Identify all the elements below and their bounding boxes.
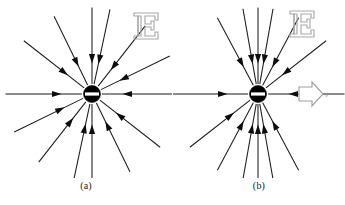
field-line — [217, 18, 253, 86]
field-line — [263, 18, 299, 86]
field-line-arrowhead — [248, 54, 254, 64]
panel-a-caption: (a) — [0, 180, 172, 191]
field-line-arrowhead — [119, 74, 129, 81]
field-line — [24, 41, 84, 88]
velocity-arrow: v — [299, 82, 329, 106]
field-line — [243, 104, 256, 178]
field-line-arrowhead — [81, 124, 87, 134]
field-line — [39, 102, 86, 162]
field-line-arrowhead — [272, 57, 279, 67]
field-line — [263, 103, 299, 171]
field-line-arrowhead — [289, 91, 299, 97]
minus-sign-b — [251, 92, 265, 95]
physics-figure: (a) v (b) — [0, 0, 345, 205]
field-line-arrowhead — [282, 67, 291, 75]
field-line — [217, 103, 253, 171]
field-line — [101, 56, 170, 90]
field-line-arrowhead — [236, 57, 243, 67]
charge-a — [84, 86, 101, 103]
electric-field-label-a — [134, 13, 158, 39]
field-line-arrowhead — [255, 125, 261, 135]
field-line — [14, 98, 83, 132]
field-line — [94, 9, 110, 84]
field-line-arrowhead — [65, 118, 73, 127]
panel-a-diagram — [0, 0, 172, 178]
electric-field-label-b — [290, 11, 314, 37]
field-line-arrowhead — [218, 91, 228, 97]
field-line-arrowhead — [123, 91, 133, 97]
panel-b-diagram: v — [173, 0, 345, 178]
minus-sign-a — [85, 92, 99, 95]
field-line — [260, 104, 273, 178]
field-line-arrowhead — [72, 57, 79, 67]
panel-a: (a) — [0, 0, 172, 205]
field-line-arrowhead — [116, 113, 125, 121]
field-line-arrowhead — [59, 67, 68, 75]
field-line — [100, 100, 160, 147]
field-line-arrowhead — [262, 54, 268, 64]
field-line-arrowhead — [255, 54, 261, 64]
field-line — [96, 103, 130, 172]
field-line-arrowhead — [97, 54, 103, 64]
field-line — [74, 104, 90, 178]
field-line-arrowhead — [52, 91, 62, 97]
field-line-arrowhead — [225, 113, 234, 121]
panel-b: v (b) — [173, 0, 345, 205]
panel-b-caption: (b) — [173, 180, 345, 191]
field-line-arrowhead — [248, 124, 254, 134]
field-line-arrowhead — [262, 124, 268, 134]
field-line-arrowhead — [236, 121, 243, 131]
field-line — [243, 9, 256, 84]
field-line — [54, 16, 88, 85]
field-line-arrowhead — [89, 125, 95, 135]
field-line — [260, 9, 273, 84]
field-line-arrowhead — [89, 54, 95, 64]
field-line-arrowhead — [111, 61, 119, 70]
charge-b — [250, 86, 267, 103]
field-line-arrowhead — [55, 107, 65, 114]
field-line-arrowhead — [272, 121, 279, 131]
field-line-arrowhead — [105, 121, 112, 131]
